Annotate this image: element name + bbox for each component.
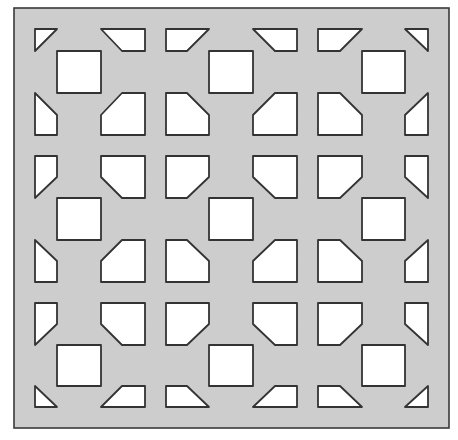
diagram-canvas (0, 0, 458, 440)
hole-square-r7-c1 (57, 345, 101, 386)
hole-square-r1-c3 (362, 51, 405, 93)
hole-square-r7-c3 (362, 345, 405, 386)
hole-square-r1-c1 (57, 51, 101, 93)
perforated-panel-figure (0, 0, 458, 440)
hole-square-r1-c2 (209, 51, 253, 93)
hole-square-r4-c1 (57, 198, 101, 240)
hole-square-r4-c2 (209, 198, 253, 240)
hole-square-r4-c3 (362, 198, 405, 240)
holes-group (35, 29, 428, 407)
hole-square-r7-c2 (209, 345, 253, 386)
